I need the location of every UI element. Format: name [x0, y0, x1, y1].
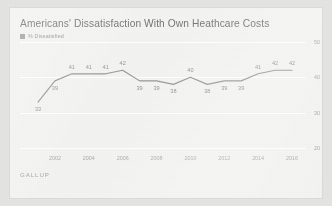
chart-screenshot: Americans' Dissatisfaction With Own Heat… [0, 0, 332, 206]
data-point-label: 41 [69, 64, 75, 70]
x-axis-tick-label: 2014 [252, 155, 264, 161]
y-axis: 50403020 [310, 42, 332, 148]
x-axis-tick-label: 2008 [151, 155, 163, 161]
data-point-label: 41 [86, 64, 92, 70]
x-axis: 20022004200620082010201220142016 [20, 148, 306, 164]
chart-card: Americans' Dissatisfaction With Own Heat… [10, 8, 322, 198]
x-axis-tick-label: 2006 [117, 155, 129, 161]
source-attribution: GALLUP [20, 171, 50, 178]
x-axis-tick-label: 2004 [83, 155, 95, 161]
data-point-label: 38 [204, 88, 210, 94]
data-point-label: 42 [289, 60, 295, 66]
data-point-label: 39 [52, 85, 58, 91]
data-point-label: 39 [238, 85, 244, 91]
chart-legend: % Dissatisfied [20, 33, 64, 39]
data-point-label: 39 [153, 85, 159, 91]
data-point-label: 41 [103, 64, 109, 70]
data-point-label: 41 [255, 64, 261, 70]
data-point-label: 39 [136, 85, 142, 91]
x-axis-tick-label: 2012 [218, 155, 230, 161]
y-axis-tick-label: 50 [314, 39, 320, 45]
series-line [20, 42, 306, 148]
y-axis-tick-label: 30 [314, 110, 320, 116]
data-point-label: 38 [170, 88, 176, 94]
data-point-label: 39 [221, 85, 227, 91]
y-axis-tick-label: 20 [314, 145, 320, 151]
x-axis-tick-label: 2016 [286, 155, 298, 161]
data-point-label: 33 [35, 106, 41, 112]
x-axis-tick-label: 2010 [184, 155, 196, 161]
plot-area: 33394141414239393840383939414242 [20, 42, 306, 148]
legend-label: % Dissatisfied [28, 33, 64, 39]
data-point-label: 42 [120, 60, 126, 66]
x-axis-tick-label: 2002 [49, 155, 61, 161]
legend-swatch-icon [20, 34, 25, 39]
y-axis-tick-label: 40 [314, 74, 320, 80]
chart-title: Americans' Dissatisfaction With Own Heat… [20, 18, 269, 29]
data-point-label: 42 [272, 60, 278, 66]
data-point-label: 40 [187, 67, 193, 73]
